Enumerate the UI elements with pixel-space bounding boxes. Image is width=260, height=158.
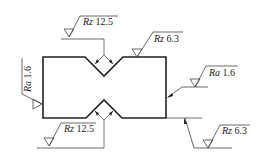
part-outline [43, 57, 166, 118]
roughness-label: Rz 12.5 [82, 16, 113, 27]
roughness-drawing: Rz 12.5 Rz 6.3 Ra 1.6 Ra 1.6 Rz 12.5 [0, 0, 260, 158]
arrow-icon [95, 59, 99, 64]
roughness-label: Rz 6.3 [221, 125, 247, 136]
arrow-icon [167, 93, 173, 98]
drawing-svg: Rz 12.5 Rz 6.3 Ra 1.6 Ra 1.6 Rz 12.5 [0, 0, 260, 158]
bottom-notch-leader [95, 111, 113, 148]
roughness-label: Rz 6.3 [153, 33, 179, 44]
roughness-label: Ra 1.6 [208, 67, 235, 78]
roughness-label: Rz 12.5 [63, 123, 94, 134]
arrow-icon [95, 111, 99, 116]
arrow-icon [109, 111, 113, 116]
arrow-icon [109, 59, 113, 64]
roughness-label: Ra 1.6 [22, 66, 33, 93]
